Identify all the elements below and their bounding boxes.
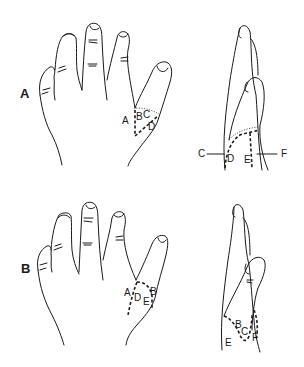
label-a-dorsal-a: A (122, 116, 129, 126)
label-a-lateral-e: E (244, 155, 251, 165)
label-b-dorsal-e: E (143, 297, 150, 307)
hand-a-dorsal (39, 23, 171, 166)
label-a-lateral-d: D (227, 154, 234, 164)
hand-drawings (0, 0, 304, 367)
label-b-dorsal-a: A (124, 288, 131, 298)
label-a-dorsal-c: C (143, 110, 150, 120)
label-a-lateral-c: C (198, 149, 205, 159)
label-a-dorsal-b: B (136, 112, 143, 122)
label-b-lateral-e: E (225, 338, 232, 348)
panel-label-b: B (21, 262, 30, 275)
label-b-lateral-c: C (241, 327, 248, 337)
label-b-dorsal-b: B (150, 287, 157, 297)
label-b-dorsal-d: D (134, 293, 141, 303)
hand-b-dorsal (37, 202, 167, 345)
panel-label-a: A (20, 87, 29, 100)
hand-a-lateral (207, 26, 277, 170)
label-a-dorsal-d: D (148, 122, 155, 132)
label-a-lateral-f: F (281, 149, 287, 159)
label-b-lateral-f: F (252, 333, 258, 343)
